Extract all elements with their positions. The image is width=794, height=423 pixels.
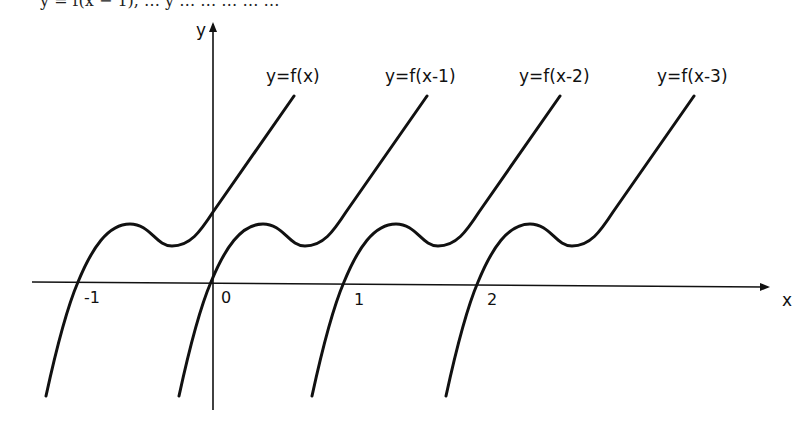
graph <box>0 0 794 423</box>
curve-f-x-minus-2 <box>312 96 560 396</box>
tick-label-neg1: -1 <box>84 290 100 306</box>
curve-label-f-x-minus-1: y=f(x-1) <box>385 68 456 85</box>
curve-f-x <box>46 96 294 396</box>
tick-label-2: 2 <box>487 292 497 308</box>
y-axis-label: y <box>196 22 206 39</box>
x-axis-label: x <box>782 292 792 309</box>
tick-label-0: 0 <box>221 290 231 306</box>
curve-f-x-minus-1 <box>179 96 427 396</box>
x-axis <box>32 282 768 287</box>
curve-label-f-x-minus-3: y=f(x-3) <box>657 68 728 85</box>
curve-label-f-x: y=f(x) <box>266 68 320 85</box>
curve-f-x-minus-3 <box>446 96 694 396</box>
curve-label-f-x-minus-2: y=f(x-2) <box>519 68 590 85</box>
tick-label-1: 1 <box>354 292 364 308</box>
